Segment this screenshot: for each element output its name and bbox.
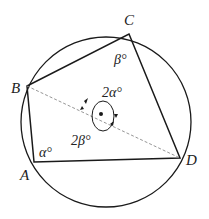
center-point: [99, 112, 103, 116]
label-point-b: B: [11, 80, 20, 96]
geometry-diagram: C B A D β° 2α° 2β° α°: [0, 0, 209, 219]
label-angle-2beta: 2β°: [71, 133, 91, 148]
label-point-c: C: [124, 12, 135, 28]
central-angle-arc: [92, 101, 114, 131]
arrow-icon-right: [114, 114, 118, 118]
arrow-icon-upper-left: [84, 98, 88, 104]
label-point-d: D: [185, 152, 197, 168]
label-angle-2alpha: 2α°: [102, 85, 122, 100]
arrow-icon-left: [80, 106, 84, 110]
label-point-a: A: [19, 167, 30, 183]
label-angle-beta: β°: [113, 52, 127, 67]
label-angle-alpha: α°: [39, 145, 52, 160]
